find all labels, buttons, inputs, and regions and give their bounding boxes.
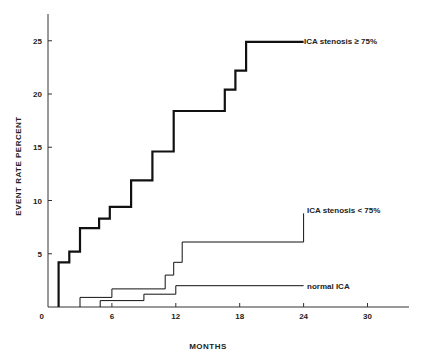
- y-axis-title: EVENT RATE PERCENT: [14, 116, 23, 216]
- y-tick-label: 25: [33, 37, 42, 46]
- x-tick-label: 12: [171, 312, 180, 321]
- x-tick-label: 30: [363, 312, 372, 321]
- y-tick-label: 20: [33, 90, 42, 99]
- x-tick-label: 24: [299, 312, 308, 321]
- x-tick-label: 6: [110, 312, 115, 321]
- series-label-stenosis-low: ICA stenosis < 75%: [307, 206, 380, 215]
- x-axis-title: MONTHS: [189, 342, 227, 351]
- y-tick-label: 0: [40, 312, 45, 321]
- series-lines: [59, 42, 304, 307]
- y-tick-label: 10: [33, 197, 42, 206]
- y-tick-label: 5: [38, 250, 43, 259]
- series-label-normal: normal ICA: [307, 282, 350, 291]
- y-tick-label: 15: [33, 143, 42, 152]
- series-stenosis-low-line: [80, 213, 304, 307]
- series-label-stenosis-high: ICA stenosis ≥ 75%: [304, 37, 377, 46]
- y-ticks: 0510152025: [33, 37, 52, 321]
- series-stenosis-high-line: [59, 42, 304, 307]
- x-tick-label: 18: [235, 312, 244, 321]
- x-ticks: 612182430: [110, 303, 373, 321]
- event-rate-chart: 0510152025 612182430 EVENT RATE PERCENT …: [0, 0, 423, 361]
